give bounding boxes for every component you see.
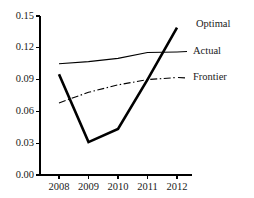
y-axis-tick-label: 0.03 <box>2 138 34 149</box>
y-axis-tick-label: 0.12 <box>2 42 34 53</box>
series-label-optimal: Optimal <box>196 19 230 30</box>
y-axis-tick-label: 0.09 <box>2 74 34 85</box>
y-axis-tick-label: 0.00 <box>2 170 34 181</box>
data-series-group <box>59 28 177 142</box>
plot-area <box>0 0 254 198</box>
series-label-frontier: Frontier <box>193 72 227 83</box>
series-line-frontier <box>59 77 177 102</box>
series-label-leader-frontier <box>178 77 187 78</box>
x-axis-tick-label: 2012 <box>160 182 194 193</box>
series-label-actual: Actual <box>193 46 221 57</box>
series-label-leader-optimal <box>177 25 179 28</box>
series-label-leaders <box>177 25 187 78</box>
y-axis-tick-label: 0.15 <box>2 11 34 22</box>
y-axis-tick-label: 0.06 <box>2 106 34 117</box>
series-line-optimal <box>59 28 177 142</box>
series-label-leader-actual <box>177 52 187 53</box>
line-chart: 0.000.030.060.090.120.15 200820092010201… <box>0 0 254 198</box>
